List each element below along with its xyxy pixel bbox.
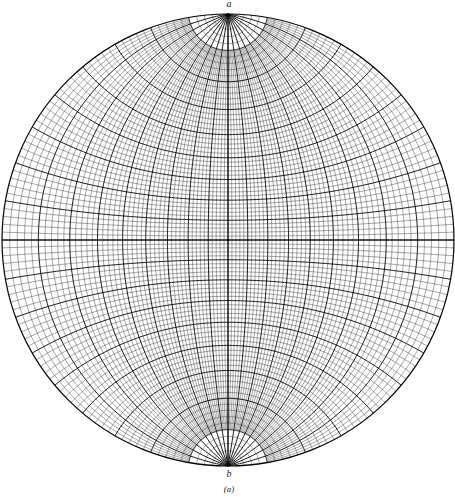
wulff-net [0,0,455,499]
pole-label-a: a [227,0,232,9]
figure-caption: (a) [224,484,235,494]
pole-label-b: b [227,468,232,479]
